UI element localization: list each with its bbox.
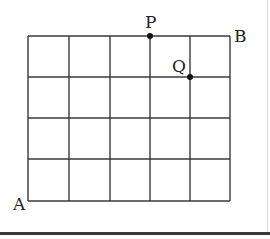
point-p-dot bbox=[147, 33, 153, 39]
grid-diagram: A B P Q bbox=[0, 0, 270, 239]
point-q-dot bbox=[187, 74, 193, 80]
label-p: P bbox=[145, 12, 156, 32]
grid bbox=[28, 36, 230, 201]
label-b: B bbox=[234, 26, 247, 46]
bottom-border bbox=[0, 232, 270, 235]
label-q: Q bbox=[172, 56, 186, 76]
label-a: A bbox=[12, 194, 26, 214]
